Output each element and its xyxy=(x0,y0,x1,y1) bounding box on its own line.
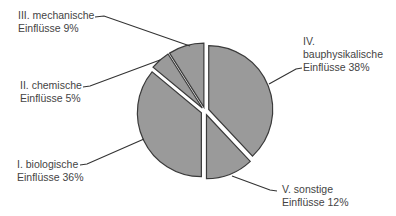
label-line: Einflüsse 38% xyxy=(303,61,383,74)
label-line: IV. xyxy=(303,35,383,48)
label-slice-III: III. mechanische Einflüsse 9% xyxy=(18,9,94,35)
pie-chart: III. mechanische Einflüsse 9% II. chemis… xyxy=(0,0,396,216)
leader-line-V xyxy=(232,176,277,191)
label-line: bauphysikalische xyxy=(303,48,383,61)
label-slice-I: I. biologische Einflüsse 36% xyxy=(17,158,84,184)
label-line: I. biologische xyxy=(17,158,84,171)
label-line: Einflüsse 5% xyxy=(20,92,82,105)
label-slice-II: II. chemische Einflüsse 5% xyxy=(20,79,82,105)
label-line: II. chemische xyxy=(20,79,82,92)
label-line: V. sonstige xyxy=(282,183,349,196)
label-line: III. mechanische xyxy=(18,9,94,22)
leader-line-III xyxy=(95,16,190,46)
label-slice-IV: IV. bauphysikalische Einflüsse 38% xyxy=(303,35,383,74)
label-line: Einflüsse 36% xyxy=(17,171,84,184)
label-line: Einflüsse 9% xyxy=(18,22,94,35)
leader-line-I xyxy=(80,139,144,165)
leader-line-IV xyxy=(269,68,302,84)
label-slice-V: V. sonstige Einflüsse 12% xyxy=(282,183,349,209)
label-line: Einflüsse 12% xyxy=(282,196,349,209)
